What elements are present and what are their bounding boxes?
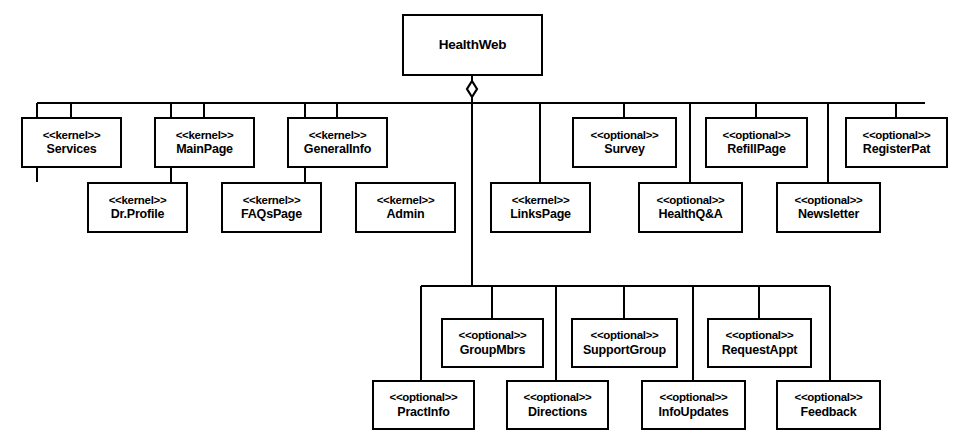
- node-admin[interactable]: <<kernel>>Admin: [355, 182, 456, 233]
- node-label-groupmbrs: GroupMbrs: [460, 343, 526, 357]
- node-label-survey: Survey: [604, 142, 645, 156]
- node-healthqa[interactable]: <<optional>>HealthQ&A: [638, 182, 743, 233]
- node-generalinfo[interactable]: <<kernel>>GeneralInfo: [287, 117, 388, 168]
- node-label-generalinfo: GeneralInfo: [304, 142, 371, 156]
- stereotype-label-survey: <<optional>>: [591, 129, 659, 142]
- uml-feature-diagram: HealthWeb <<kernel>>Services<<kernel>>Ma…: [0, 0, 961, 448]
- node-label-supportgroup: SupportGroup: [583, 343, 666, 357]
- stereotype-label-generalinfo: <<kernel>>: [309, 129, 367, 142]
- node-drprofile[interactable]: <<kernel>>Dr.Profile: [87, 182, 188, 233]
- node-label-linkspage: LinksPage: [510, 207, 571, 221]
- node-label-mainpage: MainPage: [176, 142, 233, 156]
- node-label-refillpage: RefillPage: [727, 142, 785, 156]
- node-label-requestappt: RequestAppt: [722, 343, 798, 357]
- node-newsletter[interactable]: <<optional>>Newsletter: [776, 182, 881, 233]
- stereotype-label-healthqa: <<optional>>: [657, 194, 725, 207]
- stereotype-label-faqspage: <<kernel>>: [243, 194, 301, 207]
- stereotype-label-registerpat: <<optional>>: [863, 129, 931, 142]
- node-label-services: Services: [47, 142, 97, 156]
- stereotype-label-admin: <<kernel>>: [377, 194, 435, 207]
- stereotype-label-practinfo: <<optional>>: [390, 391, 458, 404]
- node-groupmbrs[interactable]: <<optional>>GroupMbrs: [441, 318, 544, 368]
- node-registerpat[interactable]: <<optional>>RegisterPat: [845, 117, 948, 168]
- node-requestappt[interactable]: <<optional>>RequestAppt: [707, 318, 812, 368]
- node-label-healthweb: HealthWeb: [439, 37, 507, 52]
- node-practinfo[interactable]: <<optional>>PractInfo: [372, 380, 475, 430]
- node-supportgroup[interactable]: <<optional>>SupportGroup: [571, 318, 678, 368]
- node-directions[interactable]: <<optional>>Directions: [506, 380, 609, 430]
- node-survey[interactable]: <<optional>>Survey: [572, 117, 677, 168]
- node-infoupdates[interactable]: <<optional>>InfoUpdates: [641, 380, 746, 430]
- node-label-healthqa: HealthQ&A: [658, 207, 722, 221]
- node-label-registerpat: RegisterPat: [863, 142, 930, 156]
- node-label-drprofile: Dr.Profile: [111, 207, 165, 221]
- stereotype-label-directions: <<optional>>: [524, 391, 592, 404]
- stereotype-label-drprofile: <<kernel>>: [109, 194, 167, 207]
- node-refillpage[interactable]: <<optional>>RefillPage: [705, 117, 808, 168]
- aggregation-diamond-icon: [467, 81, 477, 97]
- stereotype-label-refillpage: <<optional>>: [723, 129, 791, 142]
- node-label-faqspage: FAQsPage: [241, 207, 302, 221]
- node-label-infoupdates: InfoUpdates: [658, 405, 728, 419]
- stereotype-label-mainpage: <<kernel>>: [176, 129, 234, 142]
- node-services[interactable]: <<kernel>>Services: [21, 117, 122, 168]
- stereotype-label-feedback: <<optional>>: [795, 391, 863, 404]
- stereotype-label-services: <<kernel>>: [43, 129, 101, 142]
- stereotype-label-linkspage: <<kernel>>: [512, 194, 570, 207]
- stereotype-label-requestappt: <<optional>>: [726, 329, 794, 342]
- node-label-newsletter: Newsletter: [798, 207, 859, 221]
- node-mainpage[interactable]: <<kernel>>MainPage: [154, 117, 255, 168]
- stereotype-label-groupmbrs: <<optional>>: [459, 329, 527, 342]
- stereotype-label-infoupdates: <<optional>>: [660, 391, 728, 404]
- node-label-practinfo: PractInfo: [397, 405, 449, 419]
- node-label-admin: Admin: [387, 207, 425, 221]
- node-label-directions: Directions: [528, 405, 587, 419]
- stereotype-label-newsletter: <<optional>>: [795, 194, 863, 207]
- node-healthweb[interactable]: HealthWeb: [402, 14, 543, 76]
- stereotype-label-supportgroup: <<optional>>: [591, 329, 659, 342]
- node-linkspage[interactable]: <<kernel>>LinksPage: [490, 182, 591, 233]
- node-feedback[interactable]: <<optional>>Feedback: [776, 380, 881, 430]
- node-label-feedback: Feedback: [800, 405, 856, 419]
- aggregation-diamond-shape: [467, 81, 477, 97]
- node-faqspage[interactable]: <<kernel>>FAQsPage: [221, 182, 322, 233]
